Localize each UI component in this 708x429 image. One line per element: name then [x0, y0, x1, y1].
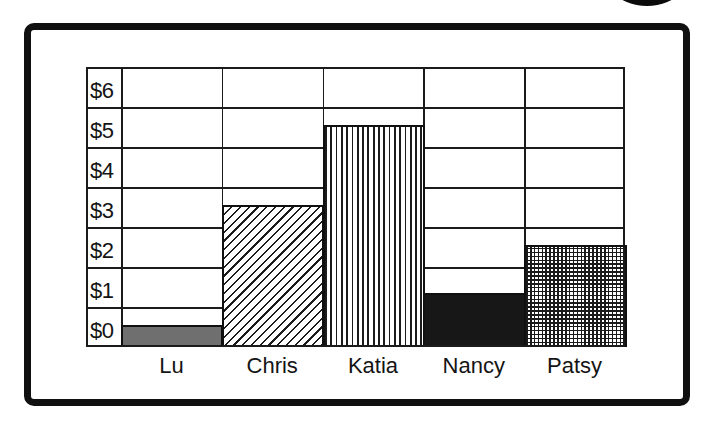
- y-axis-label: $5: [90, 120, 121, 142]
- worksheet-page: $0$1$2$3$4$5$6LuChrisKatiaNancyPatsy: [0, 0, 708, 429]
- y-axis-label: $2: [90, 240, 121, 262]
- gridline-horizontal: [86, 107, 625, 109]
- bar-patsy: [524, 245, 626, 347]
- y-axis-label: $3: [90, 200, 121, 222]
- gridline-horizontal: [86, 67, 625, 69]
- x-axis-label: Patsy: [524, 353, 625, 379]
- y-axis-label: $1: [90, 280, 121, 302]
- x-axis-label: Katia: [323, 353, 424, 379]
- gridline-vertical: [121, 67, 123, 347]
- x-axis-label: Lu: [121, 353, 222, 379]
- x-axis-baseline: [86, 345, 625, 347]
- x-axis-label: Nancy: [423, 353, 524, 379]
- y-axis-label: $4: [90, 160, 121, 182]
- bar-katia: [323, 125, 425, 347]
- y-axis-label: $6: [90, 80, 121, 102]
- y-axis-label: $0: [90, 320, 121, 342]
- x-axis-label: Chris: [222, 353, 323, 379]
- bar-chart: $0$1$2$3$4$5$6LuChrisKatiaNancyPatsy: [86, 67, 625, 347]
- gridline-vertical: [86, 67, 88, 347]
- bar-nancy: [423, 293, 525, 347]
- page-number-bubble: [594, 0, 700, 6]
- bar-chris: [222, 205, 324, 347]
